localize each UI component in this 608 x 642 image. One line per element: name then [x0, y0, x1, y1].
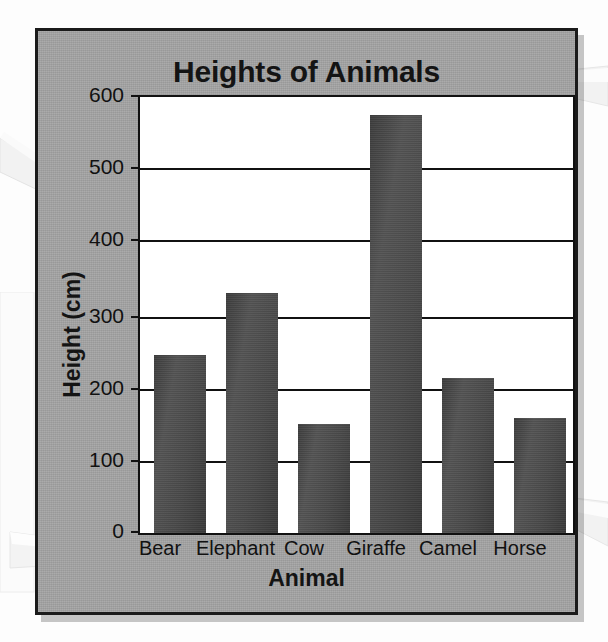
chart-panel: Heights of Animals Height (cm) Animal 60… — [35, 28, 578, 615]
y-tick-mark-200 — [131, 388, 138, 390]
bar-cow — [298, 424, 350, 533]
gridline-400 — [140, 240, 573, 242]
y-tick-mark-400 — [131, 239, 138, 241]
gridline-500 — [140, 168, 573, 170]
x-tick-label-horse: Horse — [484, 537, 556, 560]
y-tick-mark-500 — [131, 167, 138, 169]
gridline-300 — [140, 317, 573, 319]
y-tick-label-300: 300 — [62, 304, 124, 328]
x-tick-label-giraffe: Giraffe — [340, 537, 412, 560]
y-tick-label-0: 0 — [62, 519, 124, 543]
y-tick-label-500: 500 — [62, 155, 124, 179]
y-tick-label-400: 400 — [62, 227, 124, 251]
plot-area — [138, 95, 575, 535]
y-tick-mark-600 — [131, 95, 138, 97]
y-tick-label-200: 200 — [62, 376, 124, 400]
x-tick-label-cow: Cow — [268, 537, 340, 560]
y-tick-mark-0 — [131, 531, 138, 533]
x-tick-label-bear: Bear — [124, 537, 196, 560]
page-canvas: Heights of Animals Height (cm) Animal 60… — [0, 0, 608, 642]
y-tick-label-600: 600 — [62, 83, 124, 107]
y-tick-label-100: 100 — [62, 448, 124, 472]
bar-horse — [514, 418, 566, 533]
y-tick-mark-300 — [131, 316, 138, 318]
bar-camel — [442, 378, 494, 533]
bar-elephant — [226, 293, 278, 533]
x-tick-label-camel: Camel — [412, 537, 484, 560]
y-tick-mark-100 — [131, 460, 138, 462]
x-tick-label-elephant: Elephant — [196, 537, 268, 560]
bar-giraffe — [370, 115, 422, 533]
bar-bear — [154, 355, 206, 533]
x-axis-title: Animal — [38, 565, 575, 592]
